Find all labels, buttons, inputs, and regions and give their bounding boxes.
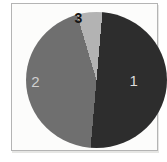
pie-slice-label-2: 2 <box>31 73 39 88</box>
pie-slice-label-1: 1 <box>129 73 137 88</box>
pie-chart <box>26 12 167 148</box>
screenshot-canvas: 123 <box>0 0 167 162</box>
pie-slice-label-3: 3 <box>74 11 82 25</box>
